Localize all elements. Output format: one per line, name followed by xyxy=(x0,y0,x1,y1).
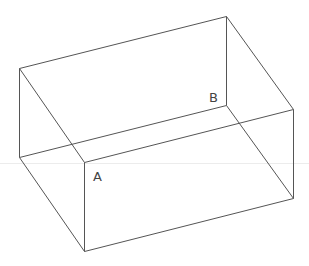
cuboid-diagram: A B xyxy=(0,0,309,266)
edge-bottom-front xyxy=(85,199,294,252)
edge-bottom-right xyxy=(227,106,294,199)
label-b: B xyxy=(209,90,218,105)
edge-top-right xyxy=(227,17,294,110)
edge-top-left xyxy=(20,69,85,163)
edge-bottom-left xyxy=(20,158,85,252)
edge-top-back xyxy=(20,17,227,69)
label-a: A xyxy=(93,169,102,184)
cuboid-edges xyxy=(20,17,294,252)
